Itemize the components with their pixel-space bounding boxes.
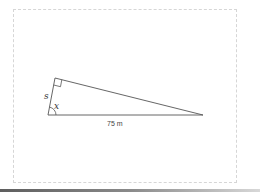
hypotenuse xyxy=(55,78,203,115)
bottom-divider xyxy=(0,189,260,192)
label-base-length: 75 m xyxy=(107,120,123,127)
label-x: x xyxy=(54,101,59,111)
label-s: s xyxy=(44,91,49,101)
triangle-diagram: s x 75 m xyxy=(0,0,260,192)
page: below. s x 75 m xyxy=(0,0,260,192)
